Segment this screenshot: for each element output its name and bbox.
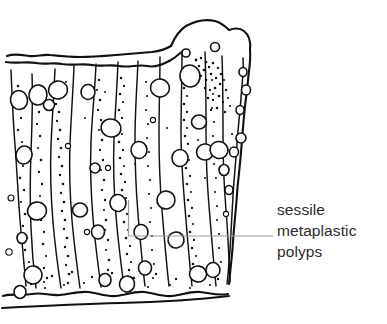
crypt-line-9 <box>181 54 192 286</box>
bottom-straight-line <box>2 296 229 308</box>
vacuole <box>130 141 148 160</box>
crypt-line-4 <box>70 66 80 288</box>
figure-container: sessile metaplastic polyps <box>0 0 387 324</box>
cell-ring <box>8 195 14 201</box>
annotation-label-line-2: metaplastic <box>277 220 387 241</box>
cell-ring <box>150 117 155 122</box>
annotation-label: sessile metaplastic polyps <box>277 199 387 262</box>
crypt-line-6 <box>114 62 124 287</box>
vacuole <box>225 186 233 195</box>
vacuole <box>230 147 239 157</box>
crypt-line-7 <box>135 61 145 286</box>
vacuole <box>149 77 171 98</box>
vacuole <box>167 231 186 250</box>
vacuole <box>172 150 188 167</box>
vacuole <box>211 43 220 52</box>
annotation-leader <box>128 200 273 236</box>
vacuole <box>90 163 100 173</box>
vacuole <box>206 263 220 278</box>
vacuole <box>134 225 148 240</box>
vacuole <box>14 286 26 299</box>
vacuole <box>182 49 190 57</box>
vacuole <box>236 106 244 115</box>
vacuole <box>17 233 27 244</box>
vacuole <box>99 117 122 139</box>
cell-ring <box>6 249 12 255</box>
crypt-line-2 <box>30 74 36 288</box>
vacuole <box>81 85 95 100</box>
mucosa-line-drawing <box>0 0 387 324</box>
bottom-wavy-boundary <box>3 292 228 296</box>
annotation-label-line-1: sessile <box>277 199 387 220</box>
cell-ring <box>65 143 70 148</box>
vacuole <box>239 68 247 77</box>
luminal-surface-upper <box>7 46 171 57</box>
vacuole <box>192 115 207 129</box>
luminal-surface-lower <box>6 50 184 67</box>
cell-ring <box>223 211 228 216</box>
vacuole <box>108 193 128 213</box>
annotation-label-line-3: polyps <box>277 241 387 262</box>
vacuole <box>99 274 111 287</box>
cell-ring <box>84 229 89 234</box>
cell-ring <box>105 165 110 170</box>
vacuole <box>139 261 152 275</box>
vacuole <box>219 165 229 176</box>
vacuole <box>92 225 105 239</box>
vacuole <box>156 190 176 210</box>
vacuole <box>236 133 246 143</box>
vacuole <box>242 85 251 95</box>
vacuole <box>44 100 55 111</box>
vacuole <box>26 201 47 221</box>
vacuole <box>73 203 88 217</box>
